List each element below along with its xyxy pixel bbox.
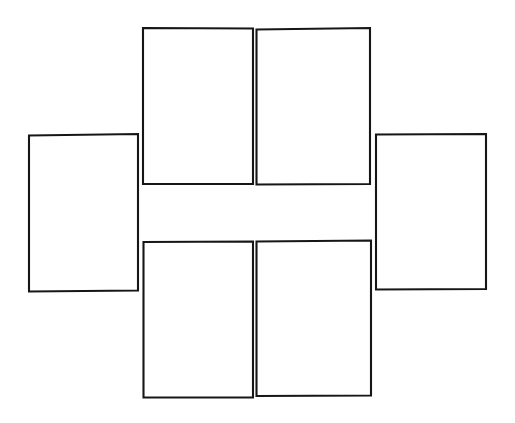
right-panel <box>376 134 486 290</box>
top-right-panel <box>257 28 371 185</box>
top-left-panel <box>143 28 253 184</box>
diagram-canvas <box>0 0 515 423</box>
left-panel <box>29 134 138 292</box>
cube-net-diagram <box>0 0 515 423</box>
bottom-left-panel <box>144 242 254 398</box>
bottom-right-panel <box>257 241 372 397</box>
